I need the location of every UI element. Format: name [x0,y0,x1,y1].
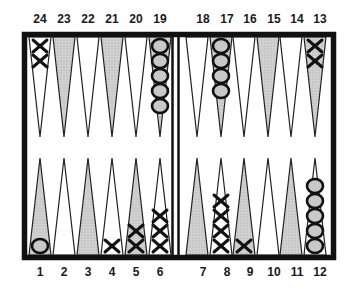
o-checker[interactable] [152,39,168,53]
o-checker[interactable] [32,239,48,253]
o-checker[interactable] [307,224,323,238]
o-checker[interactable] [307,239,323,253]
o-checker[interactable] [152,84,168,98]
o-checker[interactable] [213,39,229,53]
backgammon-board [0,0,355,293]
o-checker[interactable] [152,54,168,68]
o-checker[interactable] [152,69,168,83]
o-checker[interactable] [213,69,229,83]
o-checker[interactable] [152,99,168,113]
o-checker[interactable] [213,84,229,98]
o-checker[interactable] [307,194,323,208]
o-checker[interactable] [307,209,323,223]
o-checker[interactable] [213,54,229,68]
o-checker[interactable] [307,179,323,193]
